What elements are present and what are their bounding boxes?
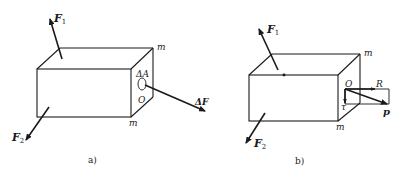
label-f1-a: F1	[53, 12, 66, 26]
panel-a: F1 m ΔA O m F2 ΔF a)	[11, 12, 209, 165]
label-o-a: O	[138, 95, 146, 105]
total-stress-arrow	[345, 89, 387, 104]
top-left-edge-a	[37, 48, 60, 69]
label-delta-f: ΔF	[194, 97, 209, 107]
label-delta-a: ΔA	[135, 69, 149, 79]
caption-a: a)	[88, 155, 97, 165]
front-face-b	[249, 75, 338, 121]
label-total-stress: p	[383, 106, 390, 117]
reference-dot	[283, 74, 286, 77]
label-f1-b: F1	[266, 23, 279, 37]
label-m-bottom-a: m	[129, 118, 138, 128]
panel-b: F1 m O R τ p m F2 b)	[246, 23, 390, 166]
stress-diagram: F1 m ΔA O m F2 ΔF a) F1 m O R τ	[0, 0, 399, 172]
label-o-b: O	[345, 79, 353, 89]
top-right-edge-b	[338, 54, 360, 75]
force-f1-arrow-a	[50, 19, 62, 59]
caption-b: b)	[295, 156, 304, 166]
top-left-edge-b	[249, 54, 272, 75]
label-m-top-b: m	[364, 48, 373, 58]
label-f2-a: F2	[11, 131, 24, 145]
label-shear-stress: τ	[341, 102, 347, 112]
top-right-edge-a	[131, 48, 153, 69]
front-face-a	[37, 69, 131, 117]
label-f2-b: F2	[253, 137, 266, 151]
stress-decomposition	[345, 89, 389, 104]
label-normal-stress: R	[375, 79, 383, 89]
box-a	[37, 48, 153, 117]
label-m-bottom-b: m	[336, 122, 345, 132]
label-m-top-a: m	[157, 42, 166, 52]
area-element-circle	[138, 78, 146, 90]
